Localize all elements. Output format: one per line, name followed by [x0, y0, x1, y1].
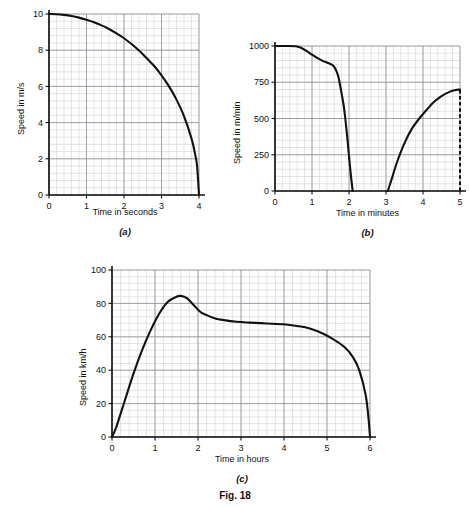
svg-text:100: 100 — [91, 265, 106, 275]
panel-c-subcaption: (c) — [112, 473, 372, 484]
panel-a-x-axis-label: Time in seconds — [49, 207, 201, 217]
svg-text:10: 10 — [33, 9, 43, 19]
svg-text:1: 1 — [152, 443, 157, 453]
svg-text:8: 8 — [38, 45, 43, 55]
svg-b-grid — [275, 46, 460, 191]
svg-text:2: 2 — [346, 197, 351, 207]
svg-text:60: 60 — [96, 332, 106, 342]
svg-text:6: 6 — [38, 82, 43, 92]
svg-text:2: 2 — [38, 154, 43, 164]
svg-text:4: 4 — [281, 443, 286, 453]
svg-a-axes — [49, 10, 205, 195]
svg-text:4: 4 — [420, 197, 425, 207]
panel-a-plot: 012340246810 — [0, 0, 215, 215]
figure-caption: Fig. 18 — [0, 490, 470, 501]
svg-text:2: 2 — [195, 443, 200, 453]
svg-a-grid — [49, 14, 199, 195]
svg-text:5: 5 — [324, 443, 329, 453]
panel-b: Speed in m/min 01234502505007501000 Time… — [218, 22, 470, 257]
panel-b-subcaption: (b) — [275, 227, 460, 238]
panel-a: Speed in m/s 012340246810 Time in second… — [0, 0, 215, 250]
svg-text:80: 80 — [96, 299, 106, 309]
panel-a-subcaption: (a) — [49, 226, 201, 237]
svg-text:750: 750 — [254, 77, 269, 87]
svg-text:1: 1 — [309, 197, 314, 207]
panel-c-x-axis-label: Time in hours — [112, 454, 372, 464]
svg-text:20: 20 — [96, 399, 106, 409]
svg-c-ticks: 0123456020406080100 — [91, 265, 373, 453]
svg-text:6: 6 — [367, 443, 372, 453]
svg-text:5: 5 — [457, 197, 462, 207]
svg-text:40: 40 — [96, 365, 106, 375]
svg-text:0: 0 — [109, 443, 114, 453]
svg-text:0: 0 — [272, 197, 277, 207]
svg-text:0: 0 — [101, 432, 106, 442]
panel-c: Speed in km/h 0123456020406080100 Time i… — [60, 258, 400, 498]
panel-c-plot: 0123456020406080100 — [60, 258, 400, 463]
figure-18: Speed in m/s 012340246810 Time in second… — [0, 0, 470, 507]
svg-text:4: 4 — [38, 118, 43, 128]
svg-c-grid — [112, 270, 370, 437]
svg-text:250: 250 — [254, 150, 269, 160]
panel-b-plot: 01234502505007501000 — [218, 22, 470, 212]
svg-b-axes — [275, 42, 466, 191]
svg-text:500: 500 — [254, 114, 269, 124]
svg-text:3: 3 — [238, 443, 243, 453]
svg-text:0: 0 — [38, 190, 43, 200]
svg-text:1000: 1000 — [249, 41, 269, 51]
panel-b-x-axis-label: Time in minutes — [275, 208, 460, 218]
svg-text:3: 3 — [383, 197, 388, 207]
svg-c-axes — [112, 266, 376, 437]
svg-text:0: 0 — [264, 186, 269, 196]
